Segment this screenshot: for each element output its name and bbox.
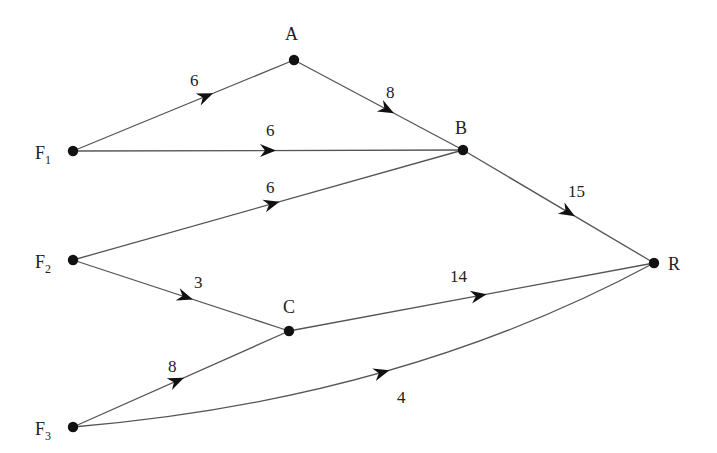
node-dot	[68, 146, 78, 156]
edge-f3-c: 8	[73, 331, 289, 427]
node-label: R	[668, 254, 680, 274]
node-label-subscript: 1	[45, 153, 51, 167]
node-label: F2	[35, 252, 51, 276]
edge-weight-label: 6	[266, 121, 275, 140]
node-label-main: B	[455, 118, 467, 138]
edge-weight-label: 3	[194, 273, 203, 292]
node-label: C	[283, 297, 295, 317]
node-label-main: F	[35, 252, 45, 272]
edge-line	[73, 150, 463, 260]
node-label-main: F	[35, 143, 45, 163]
node-label-main: F	[35, 419, 45, 439]
edge-line	[463, 150, 654, 263]
node-label-subscript: 3	[45, 429, 51, 443]
edge-weight-label: 4	[397, 388, 406, 407]
node-dot	[68, 422, 78, 432]
edge-line	[289, 263, 654, 331]
node-f3: F3	[35, 419, 78, 443]
node-c: C	[283, 297, 295, 336]
edge-line	[294, 60, 463, 150]
node-label-main: C	[283, 297, 295, 317]
edge-f1-a: 6	[73, 60, 294, 151]
edge-weight-label: 8	[386, 83, 395, 102]
edge-b-r: 15	[463, 150, 654, 263]
node-f1: F1	[35, 143, 78, 167]
node-label: B	[455, 118, 467, 138]
edge-weight-label: 14	[450, 267, 468, 286]
node-dot	[68, 255, 78, 265]
node-dot	[458, 145, 468, 155]
edges-layer: 68661531484	[73, 60, 654, 427]
edge-f2-b: 6	[73, 150, 463, 260]
edge-weight-label: 6	[190, 71, 199, 90]
node-dot	[284, 326, 294, 336]
node-a: A	[285, 24, 299, 65]
node-label: F3	[35, 419, 51, 443]
edge-line	[73, 263, 654, 427]
node-dot	[289, 55, 299, 65]
node-f2: F2	[35, 252, 78, 276]
edge-f2-c: 3	[73, 260, 289, 331]
nodes-layer: F1ABF2CRF3	[35, 24, 680, 443]
node-dot	[649, 258, 659, 268]
edge-weight-label: 6	[266, 178, 275, 197]
edge-weight-label: 15	[568, 182, 585, 201]
edge-a-b: 8	[294, 60, 463, 150]
edge-c-r: 14	[289, 263, 654, 331]
node-label: F1	[35, 143, 51, 167]
edge-line	[73, 60, 294, 151]
node-label-main: R	[668, 254, 680, 274]
node-r: R	[649, 254, 680, 274]
node-label-main: A	[285, 24, 298, 44]
network-diagram: 68661531484 F1ABF2CRF3	[0, 0, 717, 453]
node-label: A	[285, 24, 298, 44]
edge-line	[73, 260, 289, 331]
node-label-subscript: 2	[45, 262, 51, 276]
edge-f3-r: 4	[73, 263, 654, 427]
arrow-icon	[558, 202, 575, 216]
edge-weight-label: 8	[168, 357, 177, 376]
